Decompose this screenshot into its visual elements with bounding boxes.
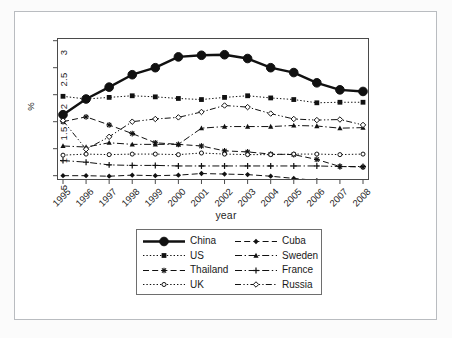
legend-symbol (142, 278, 186, 291)
legend-key-france (234, 264, 278, 277)
legend-key-russia (234, 278, 278, 291)
y-tick-label: 2.5 (58, 67, 69, 91)
y-tick-label: 1 (58, 148, 69, 172)
legend-symbol (234, 235, 278, 248)
legend-label: Cuba (282, 236, 306, 246)
legend-label: Sweden (282, 251, 318, 261)
legend-item-thailand[interactable]: Thailand (142, 264, 234, 277)
y-tick-label: 1.5 (58, 121, 69, 145)
legend-label: Thailand (190, 265, 228, 275)
plot-area (57, 38, 369, 180)
legend-symbol (234, 264, 278, 277)
legend-symbol (234, 249, 278, 262)
y-axis-title: % (25, 102, 36, 110)
legend-item-russia[interactable]: Russia (234, 278, 328, 291)
chart-figure: % year ChinaCubaUSSwedenThailandFranceUK… (0, 0, 452, 338)
legend-grid: ChinaCubaUSSwedenThailandFranceUKRussia (142, 234, 316, 292)
legend-symbol (142, 264, 186, 277)
legend-key-sweden (234, 249, 278, 262)
legend-symbol (142, 235, 186, 248)
legend-key-china (142, 235, 186, 248)
legend-key-thailand (142, 264, 186, 277)
y-tick-label: 2 (58, 94, 69, 118)
legend-label: US (190, 251, 204, 261)
legend-label: France (282, 265, 313, 275)
chart-legend: ChinaCubaUSSwedenThailandFranceUKRussia (136, 229, 322, 295)
legend-item-cuba[interactable]: Cuba (234, 235, 328, 248)
legend-key-us (142, 249, 186, 262)
legend-key-uk (142, 278, 186, 291)
x-axis-title: year (0, 209, 452, 221)
legend-label: UK (190, 280, 204, 290)
legend-item-china[interactable]: China (142, 235, 234, 248)
legend-symbol (142, 249, 186, 262)
legend-key-cuba (234, 235, 278, 248)
figure-canvas: % year ChinaCubaUSSwedenThailandFranceUK… (0, 0, 452, 338)
legend-symbol (234, 278, 278, 291)
y-tick-label: 3 (58, 40, 69, 64)
legend-label: Russia (282, 280, 313, 290)
legend-item-us[interactable]: US (142, 249, 234, 262)
legend-item-sweden[interactable]: Sweden (234, 249, 328, 262)
legend-label: China (190, 236, 216, 246)
legend-item-france[interactable]: France (234, 264, 328, 277)
legend-item-uk[interactable]: UK (142, 278, 234, 291)
